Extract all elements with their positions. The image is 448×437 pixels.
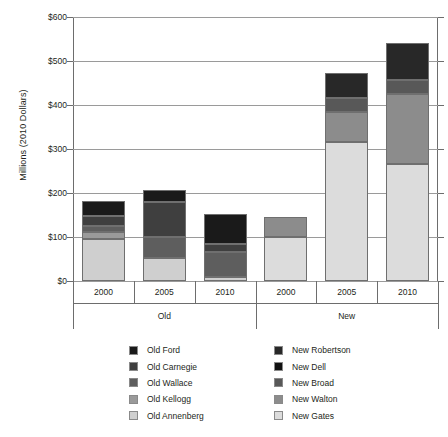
y-tick-label: $300 bbox=[21, 144, 67, 154]
bar-segment bbox=[82, 201, 125, 216]
bar-segment bbox=[386, 94, 429, 165]
legend-item[interactable]: New Robertson bbox=[274, 342, 351, 358]
bar-segment bbox=[386, 43, 429, 80]
legend-swatch-icon bbox=[129, 362, 138, 371]
bar-segment bbox=[204, 244, 247, 253]
bars-layer bbox=[73, 17, 438, 281]
legend: Old FordOld CarnegieOld WallaceOld Kello… bbox=[0, 342, 448, 434]
bar-segment bbox=[82, 216, 125, 226]
bar-old-2005 bbox=[143, 190, 186, 281]
bar-segment bbox=[143, 190, 186, 202]
bar-old-2000 bbox=[82, 201, 125, 281]
category-label: 2000 bbox=[73, 281, 134, 303]
category-separator bbox=[134, 281, 135, 303]
legend-swatch-icon bbox=[129, 378, 138, 387]
group-label: New bbox=[256, 303, 439, 329]
category-axis: 200020052010200020052010 bbox=[73, 281, 438, 304]
legend-label: New Broad bbox=[292, 378, 334, 388]
bar-segment bbox=[386, 164, 429, 281]
stacked-bar-chart: Millions (2010 Dollars) $600$500$400$300… bbox=[0, 0, 448, 437]
bar-segment bbox=[82, 232, 125, 239]
bar-segment bbox=[264, 217, 307, 236]
y-tick-label: $500 bbox=[21, 56, 67, 66]
legend-item[interactable]: New Broad bbox=[274, 375, 351, 391]
legend-label: Old Ford bbox=[147, 345, 180, 355]
bar-segment bbox=[325, 142, 368, 281]
bar-segment bbox=[264, 237, 307, 281]
legend-label: Old Annenberg bbox=[147, 411, 204, 421]
y-tick-mark bbox=[438, 149, 444, 150]
legend-label: New Gates bbox=[292, 411, 334, 421]
group-separator bbox=[438, 303, 439, 329]
y-tick-label: $0 bbox=[21, 276, 67, 286]
legend-swatch-icon bbox=[129, 411, 138, 420]
bar-segment bbox=[204, 252, 247, 277]
category-label: 2010 bbox=[377, 281, 438, 303]
legend-swatch-icon bbox=[129, 346, 138, 355]
legend-item[interactable]: Old Kellogg bbox=[129, 391, 204, 407]
group-axis: OldNew bbox=[73, 303, 438, 329]
legend-label: New Walton bbox=[292, 394, 338, 404]
y-tick-label: $400 bbox=[21, 100, 67, 110]
legend-item[interactable]: Old Carnegie bbox=[129, 358, 204, 374]
legend-label: New Dell bbox=[292, 362, 326, 372]
legend-item[interactable]: Old Ford bbox=[129, 342, 204, 358]
bar-segment bbox=[204, 214, 247, 243]
legend-swatch-icon bbox=[274, 395, 283, 404]
legend-swatch-icon bbox=[129, 395, 138, 404]
bar-new-2005 bbox=[325, 73, 368, 281]
legend-label: Old Carnegie bbox=[147, 362, 197, 372]
category-separator bbox=[377, 281, 378, 303]
legend-label: Old Kellogg bbox=[147, 394, 191, 404]
category-label: 2000 bbox=[256, 281, 317, 303]
bar-segment bbox=[325, 98, 368, 112]
legend-swatch-icon bbox=[274, 411, 283, 420]
bar-segment bbox=[143, 258, 186, 281]
bar-segment bbox=[325, 112, 368, 142]
category-label: 2005 bbox=[316, 281, 377, 303]
legend-swatch-icon bbox=[274, 346, 283, 355]
legend-item[interactable]: Old Wallace bbox=[129, 375, 204, 391]
bar-old-2010 bbox=[204, 214, 247, 281]
legend-item[interactable]: New Gates bbox=[274, 408, 351, 424]
bar-segment bbox=[386, 80, 429, 94]
y-tick-mark bbox=[438, 193, 444, 194]
category-separator bbox=[316, 281, 317, 303]
group-separator bbox=[256, 303, 257, 329]
bar-new-2010 bbox=[386, 43, 429, 281]
bar-segment bbox=[82, 239, 125, 281]
y-tick-mark bbox=[438, 105, 444, 106]
y-tick-mark bbox=[438, 61, 444, 62]
y-tick-label: $200 bbox=[21, 188, 67, 198]
bar-segment bbox=[325, 73, 368, 97]
bar-segment bbox=[143, 202, 186, 237]
legend-item[interactable]: New Walton bbox=[274, 391, 351, 407]
category-separator bbox=[73, 281, 74, 303]
y-tick-label: $600 bbox=[21, 12, 67, 22]
legend-swatch-icon bbox=[274, 378, 283, 387]
legend-item[interactable]: New Dell bbox=[274, 358, 351, 374]
category-separator bbox=[256, 281, 257, 303]
legend-label: New Robertson bbox=[292, 345, 351, 355]
bar-segment bbox=[143, 237, 186, 259]
y-tick-label: $100 bbox=[21, 232, 67, 242]
category-label: 2010 bbox=[195, 281, 256, 303]
legend-swatch-icon bbox=[274, 362, 283, 371]
category-separator bbox=[195, 281, 196, 303]
category-separator bbox=[438, 281, 439, 303]
bar-new-2000 bbox=[264, 217, 307, 281]
group-label: Old bbox=[73, 303, 256, 329]
y-tick-mark bbox=[438, 17, 444, 18]
legend-column-new: New RobertsonNew DellNew BroadNew Walton… bbox=[274, 342, 351, 424]
legend-item[interactable]: Old Annenberg bbox=[129, 408, 204, 424]
group-separator bbox=[73, 303, 74, 329]
legend-label: Old Wallace bbox=[147, 378, 193, 388]
category-label: 2005 bbox=[134, 281, 195, 303]
y-tick-mark bbox=[438, 237, 444, 238]
legend-column-old: Old FordOld CarnegieOld WallaceOld Kello… bbox=[129, 342, 204, 424]
